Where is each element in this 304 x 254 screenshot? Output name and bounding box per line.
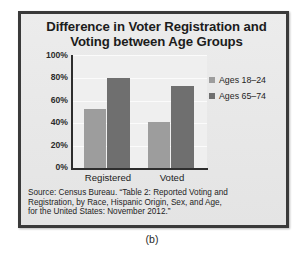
chart-title: Difference in Voter Registration and Vot…: [27, 19, 286, 49]
bar-voted-ages-65-74: [171, 86, 194, 169]
y-axis-line: [71, 55, 73, 170]
x-tick-label-voted: Voted: [142, 172, 202, 183]
chart-legend: Ages 18–24 Ages 65–74: [209, 74, 285, 106]
legend-swatch-icon-ages-65-74: [209, 93, 215, 99]
y-tick-label-40: 40%: [28, 118, 68, 127]
chart-frame: Difference in Voter Registration and Vot…: [18, 11, 289, 228]
y-tick-label-20: 20%: [28, 141, 68, 150]
y-tick-label-0: 0%: [28, 163, 68, 172]
x-tick-label-registered: Registered: [73, 172, 143, 183]
chart-title-line-2: Voting between Age Groups: [27, 34, 286, 49]
bar-group-registered: [84, 56, 134, 169]
chart-title-line-1: Difference in Voter Registration and: [27, 19, 286, 34]
y-tick-label-80: 80%: [28, 73, 68, 82]
figure-container: Difference in Voter Registration and Vot…: [0, 0, 304, 254]
legend-item-ages-18-24: Ages 18–24: [209, 74, 285, 85]
bar-registered-ages-65-74: [107, 78, 130, 169]
legend-label-ages-18-24: Ages 18–24: [219, 75, 266, 85]
plot-area: [72, 55, 207, 169]
legend-item-ages-65-74: Ages 65–74: [209, 90, 285, 101]
source-note-line-3: for the United States: November 2012.”: [28, 207, 280, 217]
source-note-line-1: Source: Census Bureau. “Table 2: Reporte…: [28, 188, 280, 198]
legend-swatch-icon-ages-18-24: [209, 77, 215, 83]
legend-label-ages-65-74: Ages 65–74: [219, 91, 266, 101]
bar-registered-ages-18-24: [84, 109, 106, 169]
x-axis-line: [71, 168, 208, 170]
bar-voted-ages-18-24: [148, 122, 170, 169]
y-tick-label-100: 100%: [28, 51, 68, 60]
y-tick-label-60: 60%: [28, 96, 68, 105]
chart-source-note: Source: Census Bureau. “Table 2: Reporte…: [28, 188, 280, 217]
bar-group-voted: [148, 56, 198, 169]
figure-caption: (b): [0, 233, 304, 245]
chart-panel: Difference in Voter Registration and Vot…: [21, 14, 286, 225]
source-note-line-2: Registration, by Race, Hispanic Origin, …: [28, 198, 280, 208]
